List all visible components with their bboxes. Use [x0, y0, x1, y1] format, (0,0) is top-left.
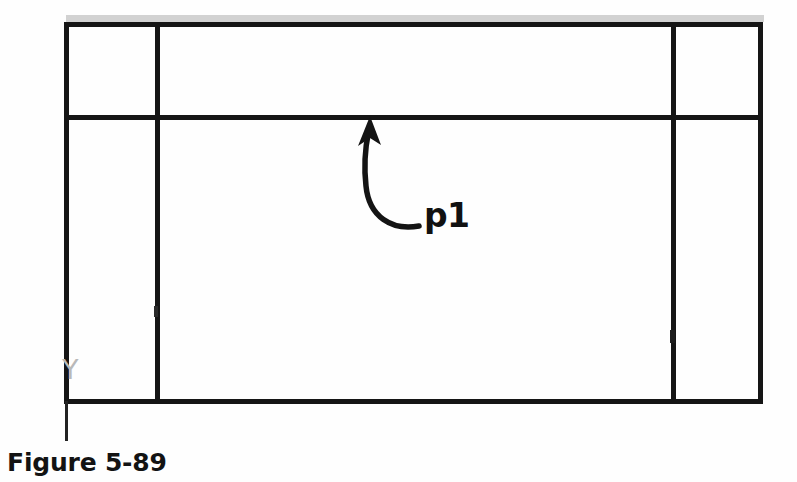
axis-label-y: Y: [62, 356, 79, 384]
outer-frame: [67, 25, 761, 402]
leader-line-p1: [365, 132, 419, 227]
callout-label-p1: p1: [424, 199, 470, 233]
technical-drawing: [0, 0, 797, 482]
figure-caption: Figure 5-89: [7, 448, 167, 478]
tick-right-divider: [670, 330, 675, 343]
figure-stage: p1 Y Figure 5-89: [0, 0, 797, 482]
tick-left-divider: [154, 306, 158, 317]
scan-shadow-strip: [66, 15, 764, 22]
